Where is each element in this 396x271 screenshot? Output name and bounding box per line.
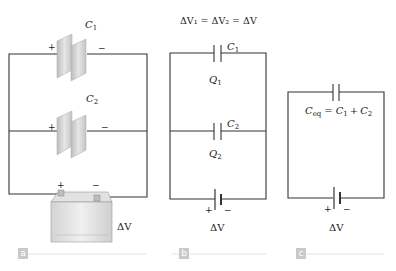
c2-plus-sign: + (48, 122, 56, 132)
c1-plus-sign: + (48, 42, 56, 52)
c-equivalent-capacitance: Ceq=C1+C2 (305, 105, 372, 118)
b-c2-label: C2 (227, 118, 239, 131)
b-c1-label: C1 (227, 41, 239, 54)
c2-minus-sign: − (101, 122, 109, 132)
c1-label: C1 (85, 19, 97, 32)
panel-b-wires (170, 45, 266, 210)
panel-c-wires (288, 84, 384, 209)
panel-a: + − C1 + − C2 + − ΔV (9, 19, 147, 254)
battery-minus-sign: − (92, 180, 100, 190)
capacitor-c2-3d: + − C2 (48, 93, 109, 158)
c-voltage-label: ΔV (329, 222, 344, 233)
panel-b: ΔV₁ = ΔV₂ = ΔV C1 Q1 C2 Q2 + − ΔV (170, 15, 266, 254)
b-voltage-label: ΔV (210, 222, 225, 233)
b-q1-label: Q1 (209, 74, 222, 87)
b-battery-minus: − (224, 205, 232, 215)
c2-label: C2 (86, 93, 98, 106)
panel-label-c: c (296, 248, 306, 259)
equation-voltage-equal: ΔV₁ = ΔV₂ = ΔV (180, 15, 257, 26)
car-battery: + − ΔV (51, 180, 132, 242)
b-battery-plus: + (205, 205, 213, 215)
battery-plus-sign: + (57, 180, 65, 190)
capacitor-c1-3d: + − C1 (48, 19, 106, 81)
c1-minus-sign: − (98, 43, 106, 53)
c-battery-minus: − (343, 204, 351, 214)
panel-c: Ceq=C1+C2 + − ΔV (288, 84, 384, 254)
parallel-capacitor-figure: + − C1 + − C2 + − ΔV ΔV₁ = ΔV₂ = ΔV (0, 0, 396, 271)
b-q2-label: Q2 (209, 148, 222, 161)
battery-voltage-label: ΔV (117, 221, 132, 232)
panel-label-a: a (18, 248, 28, 259)
panel-label-b: b (179, 248, 189, 259)
c-battery-plus: + (324, 204, 332, 214)
